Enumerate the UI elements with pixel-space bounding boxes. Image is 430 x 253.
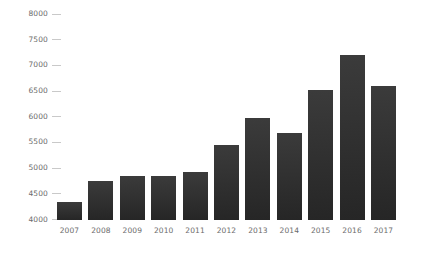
bar — [151, 176, 176, 220]
y-axis-tick-label: 5000 — [6, 164, 48, 172]
y-axis-tick — [52, 39, 61, 40]
y-axis-tick — [52, 193, 61, 194]
y-axis-tick — [52, 91, 61, 92]
bar-fill — [277, 133, 302, 219]
bar-fill — [57, 202, 82, 220]
bar-fill — [340, 55, 365, 219]
bar — [214, 145, 239, 219]
bar — [277, 133, 302, 219]
bar-chart: 4000450050005500600065007000750080002007… — [0, 0, 430, 253]
bar — [120, 176, 145, 220]
y-axis-tick — [52, 14, 61, 15]
bar — [308, 90, 333, 220]
y-axis-tick — [52, 65, 61, 66]
x-axis-tick-label: 2017 — [365, 227, 402, 235]
y-axis-tick-label: 8000 — [6, 10, 48, 18]
bar-fill — [214, 145, 239, 219]
bar-fill — [371, 86, 396, 220]
bar — [183, 172, 208, 220]
bar — [245, 118, 270, 219]
y-axis-tick-label: 6000 — [6, 113, 48, 121]
bar — [57, 202, 82, 220]
chart-screenshot: 4000450050005500600065007000750080002007… — [0, 0, 430, 253]
bar-fill — [245, 118, 270, 219]
bar-fill — [183, 172, 208, 220]
bar-fill — [120, 176, 145, 220]
y-axis-tick — [52, 116, 61, 117]
bar — [371, 86, 396, 220]
y-axis-tick-label: 7500 — [6, 36, 48, 44]
bar-fill — [151, 176, 176, 220]
y-axis-tick — [52, 168, 61, 169]
y-axis-tick-label: 5500 — [6, 138, 48, 146]
bar — [340, 55, 365, 219]
bar-fill — [308, 90, 333, 220]
bar-fill — [88, 181, 113, 220]
bar — [88, 181, 113, 220]
y-axis-tick-label: 6500 — [6, 87, 48, 95]
y-axis-tick-label: 7000 — [6, 61, 48, 69]
y-axis-tick-label: 4500 — [6, 190, 48, 198]
y-axis-tick-label: 4000 — [6, 216, 48, 224]
y-axis-tick — [52, 142, 61, 143]
